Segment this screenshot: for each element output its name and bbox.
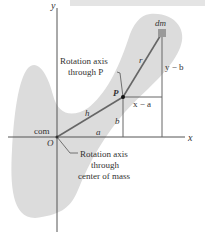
- rigid-body-shape: [11, 14, 182, 218]
- dm-square: [158, 29, 166, 37]
- axis-p-text-1: Rotation axis: [60, 56, 108, 66]
- com-label: com: [34, 126, 50, 136]
- axis-com-text-2: through: [91, 160, 119, 170]
- y-axis-label: y: [50, 0, 56, 11]
- top-band: [70, 0, 205, 6]
- axis-p-text-2: through P: [68, 67, 103, 77]
- axis-com-text-1: Rotation axis: [80, 149, 128, 159]
- y-minus-b-label: y − b: [165, 62, 184, 72]
- origin-dot: [56, 136, 59, 139]
- x-axis-label: x: [187, 132, 193, 143]
- h-label: h: [85, 108, 90, 118]
- p-label: P: [113, 88, 119, 98]
- a-label: a: [96, 127, 101, 137]
- point-p-dot: [121, 95, 125, 99]
- dm-label: dm: [155, 18, 167, 28]
- origin-label: O: [47, 138, 54, 148]
- b-label: b: [115, 116, 120, 126]
- r-label: r: [139, 55, 143, 65]
- diagram-canvas: y x dm r y − b Rotation axis through P P…: [0, 0, 205, 244]
- x-minus-a-label: x − a: [133, 99, 151, 109]
- axis-com-text-3: center of mass: [78, 171, 130, 181]
- parallel-axis-diagram: y x dm r y − b Rotation axis through P P…: [0, 0, 205, 244]
